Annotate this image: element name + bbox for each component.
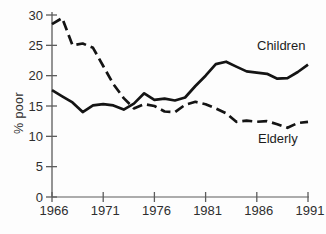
x-tick-label: 1981 bbox=[193, 203, 222, 218]
y-tick-label: 30 bbox=[29, 8, 43, 23]
y-tick-label: 25 bbox=[29, 38, 43, 53]
x-tick-label: 1971 bbox=[91, 203, 120, 218]
y-axis-title: % poor bbox=[12, 92, 26, 134]
children-line bbox=[52, 62, 308, 112]
poverty-rate-figure: 051015202530196619711976198119861991 % p… bbox=[0, 0, 326, 234]
elderly-line bbox=[52, 18, 308, 128]
x-tick-label: 1986 bbox=[244, 203, 273, 218]
x-tick-label: 1976 bbox=[142, 203, 171, 218]
elderly-series-label: Elderly bbox=[258, 131, 298, 146]
children-series-label: Children bbox=[257, 38, 305, 53]
y-tick-label: 20 bbox=[29, 68, 43, 83]
y-tick-label: 5 bbox=[36, 159, 43, 174]
y-tick-label: 15 bbox=[29, 99, 43, 114]
x-tick-label: 1966 bbox=[40, 203, 69, 218]
chart-canvas: 051015202530196619711976198119861991 bbox=[0, 0, 326, 234]
y-tick-label: 10 bbox=[29, 129, 43, 144]
x-tick-label: 1991 bbox=[296, 203, 325, 218]
